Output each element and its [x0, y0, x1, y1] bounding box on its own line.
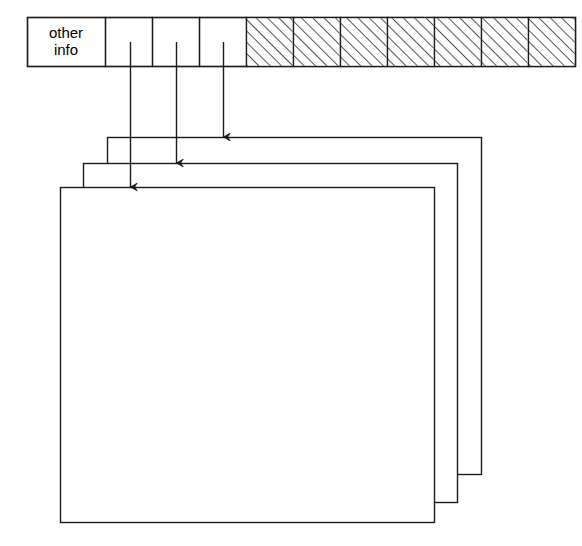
inode-cell-unused-7-hatch [529, 18, 575, 66]
diagram-svg: otherinfo [0, 0, 582, 546]
inode-cell-other-info-label: otherinfo [49, 24, 83, 58]
data-pages-group [61, 138, 482, 523]
inode-cell-unused-5-hatch [435, 18, 481, 66]
inode-header-group: otherinfo [28, 18, 576, 67]
inode-cell-unused-2-hatch [294, 18, 340, 66]
inode-cell-unused-3-hatch [341, 18, 387, 66]
diagram-canvas: otherinfo [0, 0, 582, 546]
inode-cell-unused-1-hatch [247, 18, 293, 66]
inode-cell-unused-6-hatch [482, 18, 528, 66]
inode-cell-unused-4-hatch [388, 18, 434, 66]
data-page-page-front [61, 188, 435, 523]
